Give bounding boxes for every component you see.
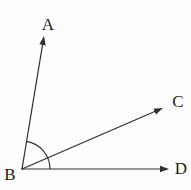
arrowhead-BD-icon <box>160 166 169 172</box>
ray-BD <box>22 166 169 172</box>
ray-BC <box>22 108 163 169</box>
point-label-C: C <box>172 92 183 111</box>
point-label-A: A <box>42 15 55 34</box>
diagram-canvas: A C D B <box>0 0 191 190</box>
angle-figure-svg: A C D B <box>0 0 191 190</box>
ray-line-BC <box>22 112 155 169</box>
arrowhead-BA-icon <box>39 36 45 45</box>
ray-line-BA <box>22 45 43 169</box>
point-label-D: D <box>175 159 187 178</box>
arrowhead-BC-icon <box>153 108 163 115</box>
point-label-B: B <box>4 165 15 184</box>
